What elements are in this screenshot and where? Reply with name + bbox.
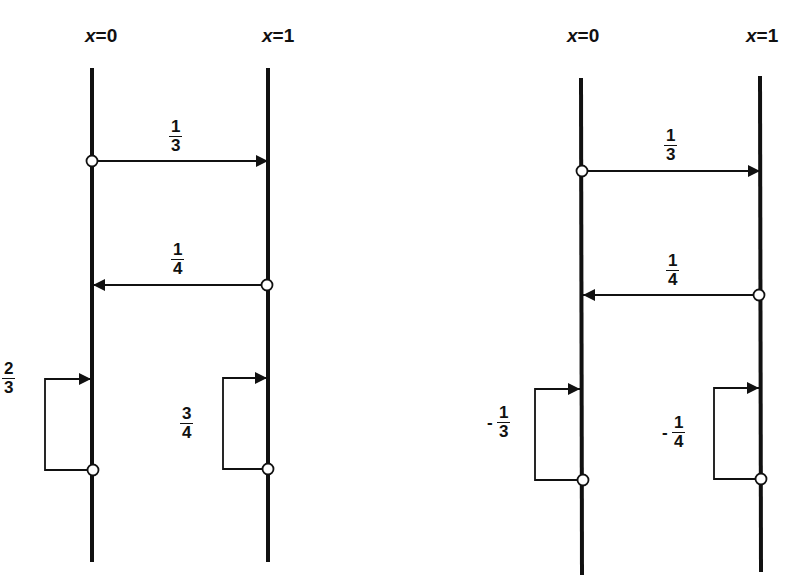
transition-prob-0-to-0: 2 3 <box>2 360 15 397</box>
numerator: 1 <box>672 414 685 433</box>
axis-eq: =1 <box>757 25 779 46</box>
axis-var: x <box>567 25 578 46</box>
axis-eq: =0 <box>578 25 600 46</box>
denominator: 3 <box>169 137 182 155</box>
transition-prob-1-to-0: 1 4 <box>666 252 679 289</box>
state-node-x0-loop <box>578 475 589 486</box>
axis-var: x <box>85 25 96 46</box>
state-node-x1 <box>262 280 273 291</box>
denominator: 3 <box>2 379 15 397</box>
self-loop-arrow-x1 <box>223 378 267 469</box>
self-loop-arrow-x1 <box>714 388 759 479</box>
state-node-x0 <box>577 166 588 177</box>
denominator: 4 <box>666 271 679 289</box>
numerator: 3 <box>180 405 193 424</box>
numerator: 1 <box>666 252 679 271</box>
self-loop-arrow-x0 <box>535 389 580 480</box>
negative-sign: - <box>662 423 668 443</box>
axis-line-x1 <box>760 76 761 572</box>
numerator: 1 <box>664 127 677 146</box>
axis-eq: =0 <box>96 25 118 46</box>
denominator: 3 <box>664 146 677 164</box>
state-node-x1-loop <box>756 474 767 485</box>
state-node-x0 <box>87 156 98 167</box>
transition-prob-0-to-1: 1 3 <box>169 118 182 155</box>
axis-line-x0 <box>581 78 582 575</box>
transition-prob-1-to-1: 3 4 <box>180 405 193 442</box>
state-node-x1 <box>754 290 765 301</box>
numerator: 1 <box>169 118 182 137</box>
denominator: 3 <box>497 423 510 441</box>
diagram-canvas <box>0 0 790 586</box>
axis-label-x0: x=0 <box>567 25 599 47</box>
left-diagram <box>45 68 274 562</box>
denominator: 4 <box>672 433 685 451</box>
transition-prob-1-to-1: 1 4 <box>672 414 685 451</box>
denominator: 4 <box>171 260 184 278</box>
state-node-x1-loop <box>263 464 274 475</box>
numerator: 1 <box>171 241 184 260</box>
transition-prob-1-to-0: 1 4 <box>171 241 184 278</box>
axis-var: x <box>262 25 273 46</box>
numerator: 2 <box>2 360 15 379</box>
state-node-x0-loop <box>88 465 99 476</box>
transition-prob-0-to-0: 1 3 <box>497 404 510 441</box>
transition-prob-0-to-1: 1 3 <box>664 127 677 164</box>
axis-eq: =1 <box>273 25 295 46</box>
right-diagram <box>535 76 767 575</box>
axis-label-x1: x=1 <box>746 25 778 47</box>
self-loop-arrow-x0 <box>45 379 91 470</box>
axis-var: x <box>746 25 757 46</box>
negative-sign: - <box>487 413 493 433</box>
denominator: 4 <box>180 424 193 442</box>
axis-label-x1: x=1 <box>262 25 294 47</box>
axis-label-x0: x=0 <box>85 25 117 47</box>
numerator: 1 <box>497 404 510 423</box>
